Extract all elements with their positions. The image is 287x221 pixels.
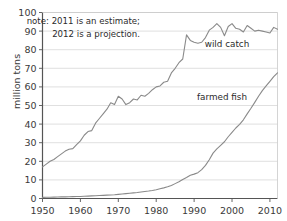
x-tick-label: 1990 bbox=[182, 205, 206, 216]
x-axis-ticks: 1950196019701980199020002010 bbox=[30, 199, 282, 216]
y-tick-label: 0 bbox=[30, 193, 36, 204]
series-label-farmed-fish: farmed fish bbox=[197, 92, 247, 102]
y-tick-label: 80 bbox=[24, 44, 36, 55]
x-tick-label: 1980 bbox=[144, 205, 168, 216]
y-tick-label: 10 bbox=[24, 174, 36, 185]
y-tick-label: 90 bbox=[24, 26, 36, 37]
note-line-1: note: 2011 is an estimate; bbox=[27, 16, 140, 26]
y-tick-label: 20 bbox=[24, 156, 36, 167]
x-tick-label: 2010 bbox=[258, 205, 282, 216]
y-tick-label: 50 bbox=[24, 100, 36, 111]
series-label-wild-catch: wild catch bbox=[205, 39, 250, 49]
chart-plot: 0102030405060708090100 19501960197019801… bbox=[0, 0, 287, 221]
y-tick-label: 60 bbox=[24, 81, 36, 92]
x-tick-label: 1960 bbox=[68, 205, 92, 216]
y-axis-ticks: 0102030405060708090100 bbox=[18, 7, 42, 204]
y-tick-label: 70 bbox=[24, 63, 36, 74]
x-tick-label: 2000 bbox=[220, 205, 244, 216]
x-tick-label: 1970 bbox=[106, 205, 130, 216]
x-tick-label: 1950 bbox=[30, 205, 54, 216]
chart-container: million tons 0102030405060708090100 1950… bbox=[0, 0, 287, 221]
y-tick-label: 40 bbox=[24, 119, 36, 130]
chart-annotations: note: 2011 is an estimate;2012 is a proj… bbox=[27, 16, 250, 102]
note-line-2: 2012 is a projection. bbox=[52, 29, 140, 39]
y-tick-label: 30 bbox=[24, 137, 36, 148]
